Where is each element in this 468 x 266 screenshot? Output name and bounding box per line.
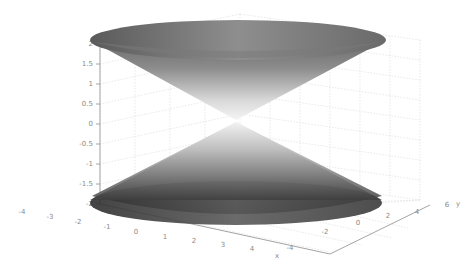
- svg-text:-4: -4: [287, 244, 295, 252]
- svg-text:0: 0: [134, 228, 138, 236]
- svg-text:-4: -4: [19, 208, 27, 216]
- svg-text:-2: -2: [322, 228, 329, 236]
- svg-text:-0.5: -0.5: [79, 140, 93, 148]
- svg-text:0: 0: [356, 219, 360, 227]
- z-tick-labels: 2 1.5 1 0.5 0 -0.5 -1 -1.5 -2: [79, 40, 93, 208]
- svg-text:-3: -3: [47, 213, 54, 221]
- svg-text:y: y: [456, 200, 460, 208]
- svg-text:1: 1: [163, 233, 167, 241]
- upper-cone: [90, 20, 386, 120]
- svg-text:3: 3: [221, 241, 225, 249]
- lower-cone: [90, 122, 382, 225]
- svg-text:4: 4: [415, 208, 420, 216]
- svg-text:-1: -1: [104, 223, 111, 231]
- svg-text:-2: -2: [75, 218, 82, 226]
- svg-text:1: 1: [89, 80, 93, 88]
- svg-text:-1: -1: [86, 160, 93, 168]
- svg-text:0.5: 0.5: [82, 100, 93, 108]
- svg-text:6: 6: [445, 201, 450, 209]
- cone-surface-plot: 2 1.5 1 0.5 0 -0.5 -1 -1.5 -2 -4 -3 -2 -…: [0, 0, 468, 266]
- svg-text:4: 4: [250, 245, 255, 253]
- svg-text:2: 2: [192, 237, 196, 245]
- svg-text:2: 2: [386, 212, 390, 220]
- svg-text:-1.5: -1.5: [79, 180, 93, 188]
- svg-text:x: x: [275, 252, 279, 260]
- svg-text:1.5: 1.5: [82, 60, 93, 68]
- svg-text:0: 0: [89, 120, 93, 128]
